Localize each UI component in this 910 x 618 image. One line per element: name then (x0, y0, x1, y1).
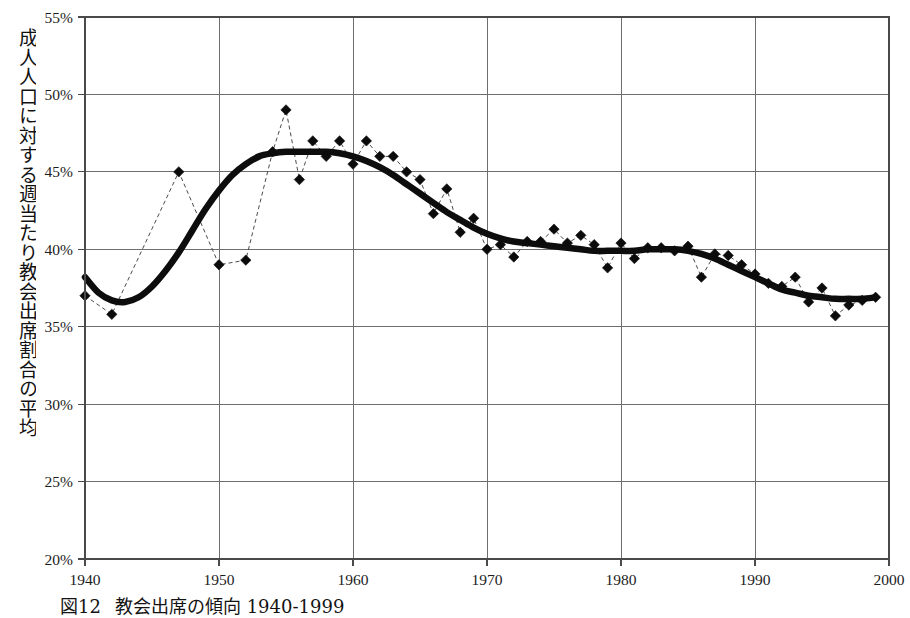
data-point-marker (602, 263, 612, 273)
data-point-marker (790, 272, 800, 282)
data-point-marker (576, 230, 586, 240)
data-point-marker (281, 105, 291, 115)
figure-caption-number: 図12 (60, 596, 101, 617)
x-tick-label: 1940 (70, 571, 101, 585)
y-tick-label-layer: 55%50%45%40%35%30%25%20% (45, 9, 74, 568)
y-tick-label: 50% (45, 86, 74, 103)
data-point-marker (455, 227, 465, 237)
data-point-marker (415, 174, 425, 184)
figure-caption: 図12教会出席の傾向 1940-1999 (60, 592, 344, 618)
x-tick-label: 1950 (204, 571, 235, 585)
trend-curve-layer (85, 152, 876, 303)
x-tick-label-layer: 1940195019601970198019902000 (70, 571, 905, 585)
data-point-marker (361, 136, 371, 146)
data-point-marker (107, 309, 117, 319)
x-tick-label: 2000 (874, 571, 905, 585)
x-tick-label: 1960 (338, 571, 369, 585)
y-tick-label: 55% (45, 9, 74, 26)
data-point-marker (817, 283, 827, 293)
data-point-marker (830, 311, 840, 321)
data-point-marker (482, 244, 492, 254)
data-point-marker (442, 184, 452, 194)
data-point-marker (241, 255, 251, 265)
data-point-marker (696, 272, 706, 282)
figure-caption-text: 教会出席の傾向 1940-1999 (115, 596, 344, 617)
data-point-marker (174, 167, 184, 177)
trend-curve (85, 152, 876, 303)
chart-plot: 55%50%45%40%35%30%25%20% 194019501960197… (0, 0, 910, 585)
y-tick-label: 45% (45, 163, 74, 180)
y-tick-label: 30% (45, 396, 74, 413)
data-point-marker (428, 208, 438, 218)
data-point-marker (214, 260, 224, 270)
tick-mark-layer (78, 17, 889, 566)
data-point-marker (629, 253, 639, 263)
data-point-marker (294, 174, 304, 184)
data-point-marker (723, 250, 733, 260)
y-tick-label: 35% (45, 318, 74, 335)
data-point-marker (388, 151, 398, 161)
data-point-marker (334, 136, 344, 146)
x-tick-label: 1990 (740, 571, 771, 585)
y-tick-label: 40% (45, 241, 74, 258)
x-tick-label: 1970 (472, 571, 503, 585)
y-tick-label: 20% (45, 551, 74, 568)
y-tick-label: 25% (45, 473, 74, 490)
x-tick-label: 1980 (606, 571, 637, 585)
